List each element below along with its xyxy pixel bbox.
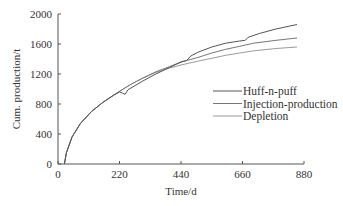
y-tick-label: 1600 [30,38,53,50]
y-tick-label: 0 [47,158,53,170]
x-tick-label: 660 [234,168,251,180]
x-tick-label: 880 [296,168,313,180]
x-tick-label: 440 [173,168,190,180]
legend-label: Huff-n-puff [243,85,297,98]
y-axis-title: Cum. production/t [10,49,22,130]
legend-label: Depletion [243,110,289,123]
x-tick-label: 220 [111,168,128,180]
x-tick-label: 0 [55,168,61,180]
y-ticks: 0400800120016002000 [30,8,61,170]
y-tick-label: 2000 [30,8,53,20]
legend-label: Injection-production [243,98,338,111]
y-tick-label: 400 [36,128,53,140]
legend: Huff-n-puffInjection-productionDepletion [213,85,338,123]
chart-canvas: 0400800120016002000 0220440660880 Time/d… [0,0,343,206]
x-axis-title: Time/d [165,185,197,197]
y-tick-label: 800 [36,98,53,110]
y-tick-label: 1200 [30,68,53,80]
